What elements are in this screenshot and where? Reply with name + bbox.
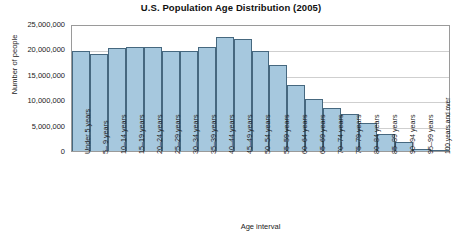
x-tick-cell: 25–29 years (161, 154, 179, 216)
x-tick-label: 85–89 years (390, 114, 399, 154)
x-tick-cell: 90–94 years (396, 154, 414, 216)
x-tick-label: 15–19 years (137, 114, 146, 154)
x-tick-label: 65–69 years (318, 114, 327, 154)
x-tick-cell: 10–14 years (107, 154, 125, 216)
x-tick-label: 45–49 years (245, 114, 254, 154)
x-tick-cell: 40–44 years (215, 154, 233, 216)
x-tick-cell: 95–99 years (414, 154, 432, 216)
x-tick-cell: Under 5 years (71, 154, 89, 216)
x-tick-label: 50–54 years (263, 114, 272, 154)
x-tick-label: 10–14 years (119, 114, 128, 154)
y-tick-label: 0 (0, 148, 65, 156)
x-tick-label: 40–44 years (227, 114, 236, 154)
x-tick-cell: 35–39 years (197, 154, 215, 216)
x-tick-label: 25–29 years (173, 114, 182, 154)
x-tick-cell: 30–34 years (179, 154, 197, 216)
x-tick-label: Under 5 years (83, 109, 92, 154)
x-tick-label: 30–34 years (191, 114, 200, 154)
y-tick-label: 5,000,000 (0, 123, 65, 131)
x-tick-cell: 20–24 years (143, 154, 161, 216)
y-tick-label: 20,000,000 (0, 47, 65, 55)
x-tick-cell: 60–64 years (288, 154, 306, 216)
population-bar-chart: U.S. Population Age Distribution (2005) … (0, 0, 462, 237)
x-tick-cell: 15–19 years (125, 154, 143, 216)
x-tick-cell: 55–59 years (270, 154, 288, 216)
x-tick-cell: 70–74 years (324, 154, 342, 216)
x-tick-label: 90–94 years (408, 114, 417, 154)
x-tick-cell: 5– 9 years (89, 154, 107, 216)
x-axis-tick-labels: Under 5 years5– 9 years10–14 years15–19 … (71, 154, 450, 216)
y-tick-label: 25,000,000 (0, 21, 65, 29)
x-tick-label: 70–74 years (336, 114, 345, 154)
x-tick-cell: 75–79 years (342, 154, 360, 216)
x-tick-label: 5– 9 years (101, 120, 110, 154)
x-axis-title: Age interval (71, 222, 450, 231)
x-tick-cell: 85–89 years (378, 154, 396, 216)
x-tick-label: 35–39 years (209, 114, 218, 154)
x-tick-label: 75–79 years (354, 114, 363, 154)
x-tick-label: 20–24 years (155, 114, 164, 154)
x-tick-cell: 65–69 years (306, 154, 324, 216)
x-tick-label: 80–84 years (372, 114, 381, 154)
y-axis-tick-labels: 25,000,00020,000,00015,000,00010,000,000… (0, 0, 68, 160)
x-tick-cell: 80–84 years (360, 154, 378, 216)
x-tick-label: 95–99 years (426, 114, 435, 154)
y-tick-label: 10,000,000 (0, 97, 65, 105)
x-tick-label: 60–64 years (300, 114, 309, 154)
x-tick-label: 100 years and over (444, 98, 451, 154)
chart-title: U.S. Population Age Distribution (2005) (0, 2, 462, 13)
x-tick-cell: 50–54 years (251, 154, 269, 216)
x-tick-cell: 45–49 years (233, 154, 251, 216)
x-tick-label: 55–59 years (282, 114, 291, 154)
y-tick-label: 15,000,000 (0, 72, 65, 80)
x-tick-cell: 100 years and over (432, 154, 450, 216)
